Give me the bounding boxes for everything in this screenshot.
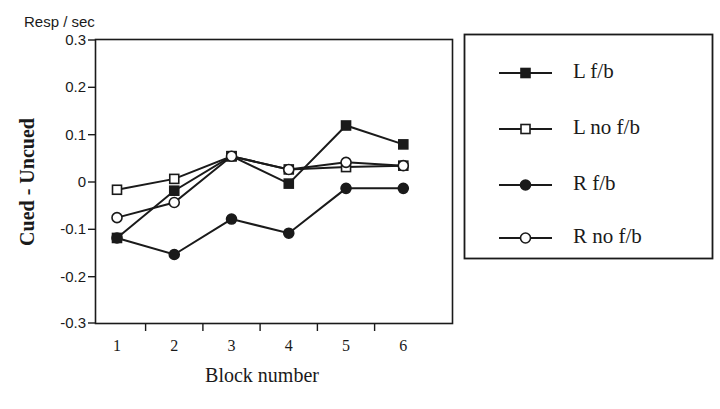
y-tick-label: 0.1 — [65, 126, 86, 143]
x-tick-label: 4 — [285, 337, 293, 354]
data-point-marker — [113, 185, 122, 194]
data-point-marker — [169, 198, 179, 208]
y-axis-ticks — [88, 40, 95, 323]
data-point-marker — [112, 213, 122, 223]
data-point-marker — [521, 180, 531, 190]
data-point-marker — [341, 157, 351, 167]
y-tick-label: 0.2 — [65, 78, 86, 95]
data-point-marker — [342, 121, 351, 130]
x-tick-label: 3 — [228, 337, 236, 354]
data-point-marker — [398, 183, 408, 193]
chart-figure: 0.3 0.2 0.1 0 -0.1 -0.2 -0.3 Resp / sec … — [0, 0, 720, 409]
y-tick-label: 0.3 — [65, 31, 86, 48]
data-point-marker — [227, 214, 237, 224]
data-point-marker — [521, 125, 530, 134]
data-point-marker — [521, 69, 530, 78]
data-point-marker — [112, 233, 122, 243]
y-tick-label: -0.1 — [60, 220, 86, 237]
y-tick-label: -0.3 — [60, 314, 86, 331]
data-point-marker — [284, 179, 293, 188]
y-tick-label: 0 — [78, 173, 86, 190]
legend-label: R f/b — [573, 171, 616, 196]
x-axis-title: Block number — [205, 364, 319, 386]
y-axis-tick-labels: 0.3 0.2 0.1 0 -0.1 -0.2 -0.3 — [60, 31, 86, 331]
plot-frame — [96, 40, 453, 324]
y-tick-label: -0.2 — [60, 268, 86, 285]
legend-label: L no f/b — [573, 115, 640, 140]
unit-annotation: Resp / sec — [24, 13, 95, 30]
data-point-marker — [284, 164, 294, 174]
y-axis-title: Cued - Uncued — [16, 118, 38, 246]
x-axis-tick-labels: 1 2 3 4 5 6 — [113, 337, 407, 354]
data-point-marker — [284, 228, 294, 238]
legend-label: L f/b — [573, 59, 614, 84]
x-tick-label: 2 — [170, 337, 178, 354]
legend-label: R no f/b — [573, 224, 642, 249]
data-point-marker — [521, 233, 531, 243]
data-point-marker — [169, 249, 179, 259]
x-tick-label: 5 — [342, 337, 350, 354]
x-tick-label: 1 — [113, 337, 121, 354]
data-point-marker — [227, 151, 237, 161]
data-point-marker — [399, 140, 408, 149]
data-point-marker — [170, 186, 179, 195]
data-point-marker — [341, 183, 351, 193]
data-point-marker — [398, 161, 408, 171]
data-point-marker — [170, 174, 179, 183]
x-tick-label: 6 — [399, 337, 407, 354]
